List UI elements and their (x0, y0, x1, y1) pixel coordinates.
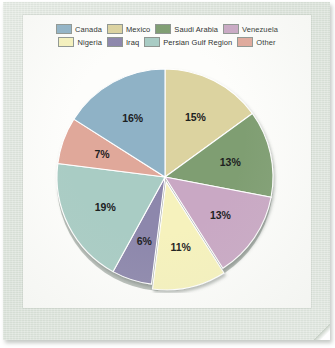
legend-label-iraq: Iraq (126, 38, 139, 47)
pie-chart-area: 15%13%13%11%6%19%7%16% (23, 57, 311, 303)
pie-label-persian-gulf-region: 19% (95, 201, 117, 213)
legend-label-canada: Canada (75, 25, 102, 34)
corner-fold (314, 324, 330, 340)
legend-item-mexico[interactable]: Mexico (107, 24, 150, 34)
legend-item-iraq[interactable]: Iraq (107, 37, 139, 47)
chart-card: Canada Mexico Saudi Arabia Venezuela (23, 15, 311, 308)
legend-row-2: Nigeria Iraq Persian Gulf Region Other (23, 37, 311, 47)
legend-swatch-saudi-arabia (155, 24, 171, 34)
legend-swatch-persian-gulf-region (144, 37, 160, 47)
scanned-page: Canada Mexico Saudi Arabia Venezuela (0, 0, 335, 348)
legend-swatch-venezuela (223, 24, 239, 34)
legend-label-persian-gulf-region: Persian Gulf Region (163, 38, 232, 47)
pie-label-venezuela: 13% (210, 209, 232, 221)
pie-label-other: 7% (94, 148, 110, 160)
pie-label-canada: 16% (122, 112, 144, 124)
legend-swatch-other (237, 37, 253, 47)
legend-item-other[interactable]: Other (237, 37, 275, 47)
legend-swatch-mexico (107, 24, 123, 34)
legend-item-nigeria[interactable]: Nigeria (58, 37, 101, 47)
chart-legend: Canada Mexico Saudi Arabia Venezuela (23, 24, 311, 50)
pie-label-iraq: 6% (137, 235, 153, 247)
pie-label-nigeria: 11% (170, 241, 191, 253)
pie-chart: 15%13%13%11%6%19%7%16% (45, 57, 289, 293)
legend-label-saudi-arabia: Saudi Arabia (174, 25, 218, 34)
legend-label-venezuela: Venezuela (242, 25, 278, 34)
legend-row-1: Canada Mexico Saudi Arabia Venezuela (23, 24, 311, 34)
legend-item-canada[interactable]: Canada (56, 24, 102, 34)
legend-swatch-canada (56, 24, 72, 34)
pie-label-saudi-arabia: 13% (220, 156, 242, 168)
legend-label-mexico: Mexico (126, 25, 150, 34)
legend-item-venezuela[interactable]: Venezuela (223, 24, 278, 34)
legend-swatch-nigeria (58, 37, 74, 47)
pie-label-mexico: 15% (185, 111, 207, 123)
legend-item-saudi-arabia[interactable]: Saudi Arabia (155, 24, 218, 34)
legend-label-other: Other (256, 38, 275, 47)
legend-swatch-iraq (107, 37, 123, 47)
legend-label-nigeria: Nigeria (77, 38, 101, 47)
legend-item-persian-gulf-region[interactable]: Persian Gulf Region (144, 37, 232, 47)
